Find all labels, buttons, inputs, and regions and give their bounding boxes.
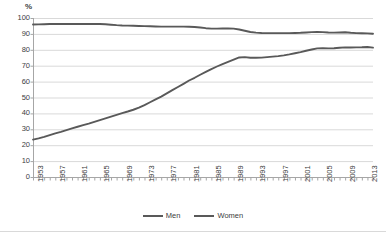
x-axis-tick-label: 1977 <box>170 165 178 182</box>
x-axis-tick-label: 2001 <box>304 165 312 182</box>
x-axis-tick-label: 2005 <box>326 165 334 182</box>
x-axis-tick-label: 1997 <box>282 165 290 182</box>
x-axis-tick-label: 1981 <box>193 165 201 182</box>
x-axis-tick-label: 1961 <box>81 165 89 182</box>
x-axis-tick-label: 1993 <box>259 165 267 182</box>
x-axis-tick-label: 1973 <box>148 165 156 182</box>
x-axis-tick-label: 1965 <box>103 165 111 182</box>
legend-item-men[interactable]: Men <box>143 212 181 220</box>
legend-line-icon <box>143 215 163 217</box>
x-axis-tick-label: 1957 <box>59 165 67 182</box>
legend-line-icon <box>194 215 214 217</box>
x-axis-tick-label: 1989 <box>237 165 245 182</box>
x-axis-tick-label: 1985 <box>215 165 223 182</box>
legend-label: Women <box>217 212 243 220</box>
x-axis-tick-label: 2013 <box>371 165 379 182</box>
legend-label: Men <box>166 212 181 220</box>
legend-item-women[interactable]: Women <box>194 212 243 220</box>
x-axis-tick-label: 1969 <box>126 165 134 182</box>
chart-legend: MenWomen <box>0 209 386 223</box>
chart-container: % 1009080706050403020100 195319571961196… <box>0 0 386 236</box>
x-axis-tick-labels: 1953195719611965196919731977198119851989… <box>0 0 386 232</box>
x-axis-tick-label: 1953 <box>37 165 45 182</box>
x-axis-tick-label: 2009 <box>349 165 357 182</box>
